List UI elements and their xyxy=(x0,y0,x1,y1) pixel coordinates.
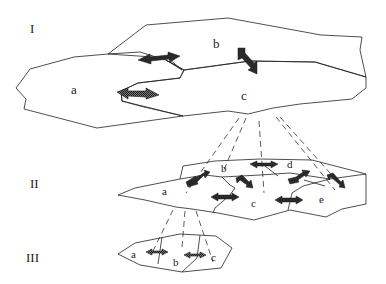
exchange-arrow-a-b xyxy=(138,52,180,64)
exchange-arrow-b-c xyxy=(184,252,206,258)
level-2-region-b-label: b xyxy=(221,162,227,174)
level-1-region-c-boundary xyxy=(183,61,366,116)
level-1-region-b-label: b xyxy=(213,36,220,51)
exchange-arrow-a-b xyxy=(186,170,210,187)
exchange-arrow-a-c xyxy=(117,88,159,99)
level-1-label: I xyxy=(30,21,34,36)
level-1-region-c-label: c xyxy=(241,88,247,103)
level-3-region-a-label: a xyxy=(131,248,136,260)
exchange-arrow-b-c xyxy=(236,175,253,188)
level-3-region-c-label: c xyxy=(211,251,216,263)
level-1-region-b xyxy=(108,18,366,77)
level-2: II a b c d e xyxy=(30,158,366,220)
exchange-arrow-c-e xyxy=(275,196,303,204)
level-1: I b a c xyxy=(16,18,366,128)
level-2-boundary-b-d xyxy=(222,173,290,177)
projection-lines-level-1-to-2 xyxy=(186,117,338,193)
level-3-boundary-a-b xyxy=(158,237,162,264)
level-2-region-e-label: e xyxy=(319,193,324,205)
level-2-outer-boundary xyxy=(118,159,366,220)
level-2-region-d-label: d xyxy=(287,158,293,170)
level-3: III a b c xyxy=(26,234,232,272)
level-2-region-a-label: a xyxy=(162,185,167,197)
exchange-arrow-b-d xyxy=(250,161,278,168)
level-1-region-a-label: a xyxy=(71,82,77,97)
level-2-region-c-label: c xyxy=(251,197,256,209)
exchange-arrow-a-b xyxy=(146,249,168,255)
hierarchical-region-diagram: I b a c II xyxy=(0,0,386,284)
level-2-label: II xyxy=(30,176,39,191)
exchange-arrow-d-e xyxy=(327,173,345,188)
exchange-arrow-c-d xyxy=(288,170,310,184)
level-3-label: III xyxy=(26,250,39,265)
level-1-region-a xyxy=(16,52,184,128)
level-3-boundary-b-c xyxy=(182,235,200,272)
level-3-region-b-label: b xyxy=(173,256,179,268)
